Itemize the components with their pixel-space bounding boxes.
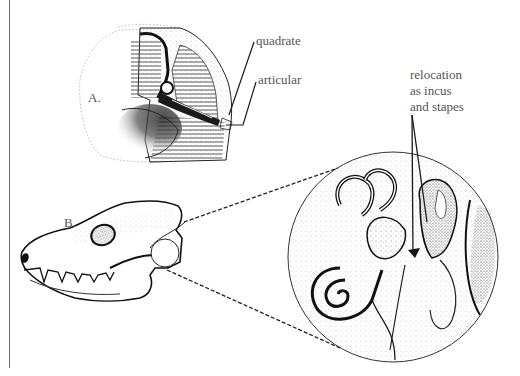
panel-a-jaw-section: [80, 24, 232, 162]
figure-canvas: A. B. quadrate articular relocation as i…: [0, 0, 520, 376]
relocation-line-2: as incus: [410, 83, 510, 99]
quadrate-label: quadrate: [256, 33, 301, 49]
illustration: [0, 0, 520, 376]
relocation-line-3: and stapes: [410, 99, 510, 115]
quadrate-leader: [229, 42, 254, 115]
panel-a-label: A.: [88, 90, 101, 106]
relocation-line-1: relocation: [410, 67, 510, 83]
panel-b-skull: [20, 201, 185, 301]
panel-b-label: B.: [64, 215, 76, 231]
articular-label: articular: [258, 72, 301, 88]
relocation-label: relocation as incus and stapes: [410, 67, 510, 115]
magnified-ear-inset: [288, 152, 498, 362]
